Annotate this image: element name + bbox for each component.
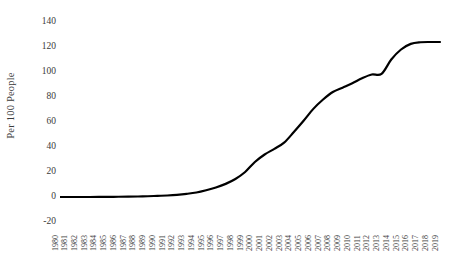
x-axis-tick-label-text: 2017 bbox=[411, 235, 420, 251]
x-axis-tick-label-text: 1988 bbox=[128, 235, 137, 251]
line-chart-svg bbox=[60, 8, 448, 230]
x-axis-tick-label-text: 2010 bbox=[343, 235, 352, 251]
y-axis-title-text: Per 100 People bbox=[5, 72, 16, 138]
x-axis-tick-label-text: 1980 bbox=[51, 235, 60, 251]
x-axis-tick-label-text: 2002 bbox=[265, 235, 274, 251]
x-axis-tick-label-text: 1997 bbox=[216, 235, 225, 251]
x-axis-tick-label-text: 2016 bbox=[401, 235, 410, 251]
x-axis-tick-label-text: 1981 bbox=[60, 235, 69, 251]
x-axis-tick-label-text: 2006 bbox=[304, 235, 313, 251]
y-axis-tick-label: 80 bbox=[22, 92, 56, 102]
x-axis-tick-label-text: 2004 bbox=[284, 235, 293, 251]
x-axis-tick-label-text: 2009 bbox=[333, 235, 342, 251]
x-axis-tick-label-text: 2014 bbox=[382, 235, 391, 251]
chart-container: Per 100 People 140120100806040200-20 198… bbox=[0, 0, 461, 254]
x-axis-tick-label-text: 1999 bbox=[236, 235, 245, 251]
x-axis-tick-label-text: 2000 bbox=[245, 235, 254, 251]
x-axis-tick-label-text: 2005 bbox=[294, 235, 303, 251]
x-axis-tick-label-text: 1998 bbox=[226, 235, 235, 251]
y-axis-tick-labels: 140120100806040200-20 bbox=[22, 0, 56, 254]
x-axis-tick-label-text: 1986 bbox=[109, 235, 118, 251]
x-axis-tick-label-text: 1992 bbox=[167, 235, 176, 251]
x-axis-tick-label-text: 1989 bbox=[138, 235, 147, 251]
x-axis-tick-label-text: 1984 bbox=[89, 235, 98, 251]
y-axis-tick-label: 140 bbox=[22, 17, 56, 27]
x-axis-tick-label-text: 1983 bbox=[80, 235, 89, 251]
x-axis-tick-label-text: 2019 bbox=[431, 235, 440, 251]
x-axis-tick-label-text: 1982 bbox=[70, 235, 79, 251]
x-axis-tick-label-text: 2003 bbox=[275, 235, 284, 251]
plot-area bbox=[60, 8, 448, 230]
x-axis-tick-label-text: 2011 bbox=[353, 235, 362, 251]
y-axis-tick-label: 60 bbox=[22, 117, 56, 127]
x-axis-tick-label-text: 1995 bbox=[197, 235, 206, 251]
x-axis-tick-label-text: 2018 bbox=[421, 235, 430, 251]
x-axis-tick-label-text: 1990 bbox=[148, 235, 157, 251]
x-axis-tick-label-text: 1987 bbox=[119, 235, 128, 251]
x-axis-tick-labels: 1980198119821983198419851986198719881989… bbox=[60, 205, 450, 254]
y-axis-tick-label: 0 bbox=[22, 192, 56, 202]
x-axis-tick-label-text: 1996 bbox=[206, 235, 215, 251]
x-axis-tick-label-text: 1994 bbox=[187, 235, 196, 251]
x-axis-tick-label: 2019 bbox=[436, 205, 445, 251]
y-axis-tick-label: -20 bbox=[22, 217, 56, 227]
x-axis-tick-label-text: 1993 bbox=[177, 235, 186, 251]
x-axis-tick-label-text: 2001 bbox=[255, 235, 264, 251]
y-axis-tick-label: 100 bbox=[22, 67, 56, 77]
x-axis-tick-label-text: 1985 bbox=[99, 235, 108, 251]
y-axis-title: Per 100 People bbox=[0, 0, 20, 210]
series-line-mobile-subscriptions bbox=[60, 42, 440, 197]
x-axis-tick-label-text: 2012 bbox=[362, 235, 371, 251]
x-axis-tick-label-text: 2008 bbox=[323, 235, 332, 251]
x-axis-tick-label-text: 2013 bbox=[372, 235, 381, 251]
y-axis-tick-label: 120 bbox=[22, 42, 56, 52]
y-axis-tick-label: 20 bbox=[22, 167, 56, 177]
x-axis-tick-label-text: 2007 bbox=[314, 235, 323, 251]
y-axis-tick-label: 40 bbox=[22, 142, 56, 152]
x-axis-tick-label-text: 1991 bbox=[158, 235, 167, 251]
x-axis-tick-label-text: 2015 bbox=[392, 235, 401, 251]
